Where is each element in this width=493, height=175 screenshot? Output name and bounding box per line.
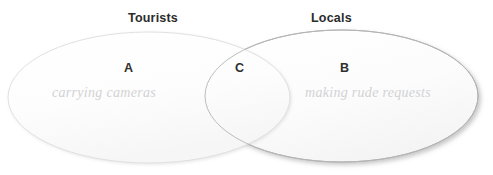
region-label-a: A <box>124 62 133 75</box>
set-title-tourists: Tourists <box>128 12 178 25</box>
venn-diagram-canvas: Tourists Locals A C B carrying cameras m… <box>0 0 493 175</box>
region-label-b: B <box>340 62 349 75</box>
region-label-c: C <box>235 62 244 75</box>
region-description-b: making rude requests <box>305 86 431 100</box>
set-title-locals: Locals <box>311 12 352 25</box>
region-description-a: carrying cameras <box>52 86 156 100</box>
